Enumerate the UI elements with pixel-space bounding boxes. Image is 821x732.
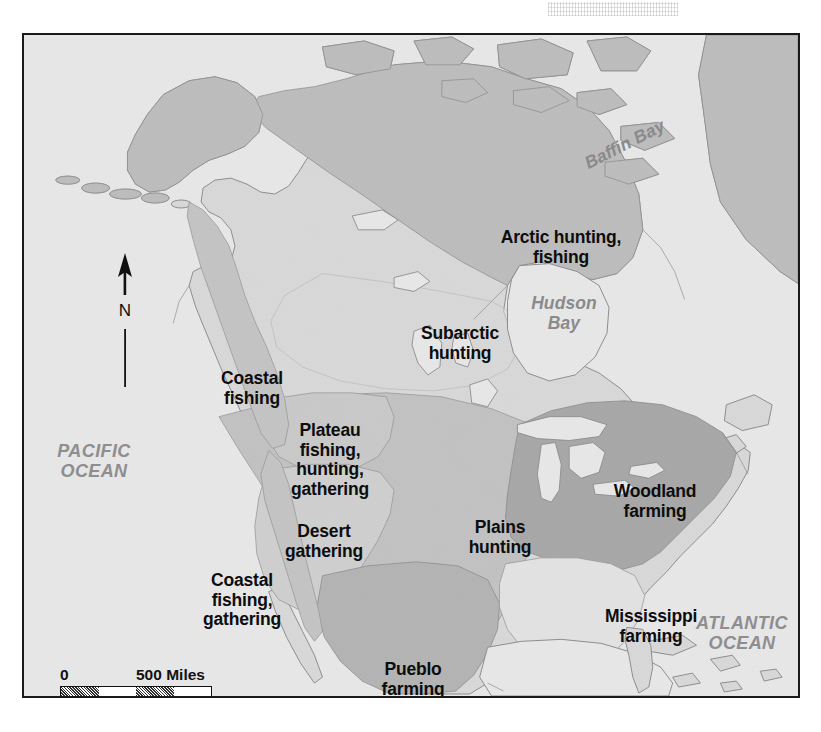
scale-miles-zero: 0 bbox=[60, 666, 69, 684]
map-graphic bbox=[24, 35, 798, 696]
scale-seg bbox=[136, 687, 174, 696]
scale-seg bbox=[61, 687, 99, 696]
scale-seg bbox=[99, 687, 137, 696]
north-arrow: N bbox=[112, 251, 138, 396]
north-arrow-label: N bbox=[112, 301, 138, 321]
north-arrow-icon bbox=[112, 251, 138, 396]
paper-grain bbox=[24, 35, 798, 696]
map-frame: Arctic hunting, fishing Subarctic huntin… bbox=[22, 33, 800, 698]
scale-bar-miles bbox=[60, 686, 212, 697]
scan-artifact bbox=[548, 2, 678, 16]
scale-miles-value: 500 Miles bbox=[136, 666, 205, 684]
scale-seg bbox=[174, 687, 212, 696]
scale-bar: 0 500 Miles 0 500 Kilometers bbox=[60, 666, 260, 698]
scale-miles-text: 0 500 Miles bbox=[60, 666, 260, 685]
map-page: Arctic hunting, fishing Subarctic huntin… bbox=[0, 0, 821, 732]
